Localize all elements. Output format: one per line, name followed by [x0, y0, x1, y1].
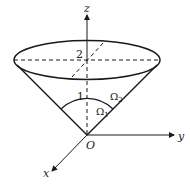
x-axis-label: x — [43, 167, 50, 180]
height-label: 2 — [76, 48, 83, 61]
cone-diagram: z y x O 2 1 Ω2 Ω1 — [0, 0, 190, 191]
region-omega1-label: Ω1 — [96, 106, 109, 119]
origin-label: O — [86, 139, 95, 152]
z-axis-label: z — [83, 2, 90, 15]
radius-label: 1 — [77, 90, 84, 103]
x-axis — [52, 135, 87, 171]
y-axis-label: y — [177, 130, 185, 143]
region-omega2-label: Ω2 — [110, 91, 123, 104]
